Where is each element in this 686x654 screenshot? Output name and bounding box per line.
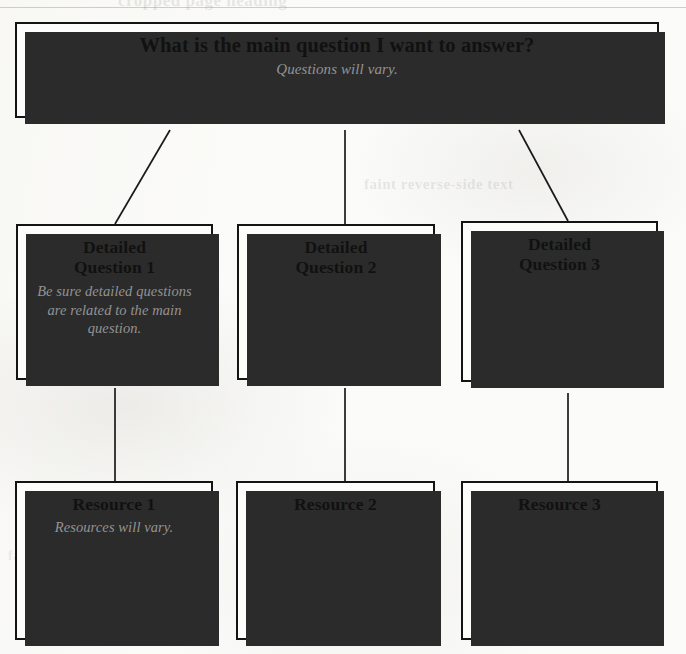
- graphic-organizer-page: cropped page heading faint reverse-side …: [0, 0, 686, 654]
- detailed-question-3-box[interactable]: DetailedQuestion 3: [461, 221, 658, 382]
- resource-1-note: Resources will vary.: [17, 518, 211, 537]
- resource-1-box[interactable]: Resource 1 Resources will vary.: [15, 481, 213, 640]
- resource-3-box[interactable]: Resource 3: [461, 481, 658, 640]
- main-question-note: Questions will vary.: [17, 60, 657, 79]
- connector-group-resources: [115, 388, 568, 481]
- resource-3-label: Resource 3: [463, 495, 656, 515]
- detailed-question-2-box[interactable]: DetailedQuestion 2: [237, 224, 435, 380]
- connector-root-to-q3: [519, 130, 568, 221]
- detailed-question-1-label: DetailedQuestion 1: [18, 238, 211, 277]
- detailed-question-1-box[interactable]: DetailedQuestion 1 Be sure detailed ques…: [16, 224, 213, 380]
- detailed-question-1-note: Be sure detailed questions are related t…: [18, 282, 211, 338]
- main-question-label: What is the main question I want to answ…: [17, 34, 657, 57]
- detailed-question-3-label: DetailedQuestion 3: [463, 235, 656, 274]
- detailed-question-2-label: DetailedQuestion 2: [239, 238, 433, 277]
- resource-2-label: Resource 2: [238, 495, 433, 515]
- connector-root-to-q1: [115, 130, 170, 224]
- main-question-box[interactable]: What is the main question I want to answ…: [15, 22, 659, 118]
- resource-2-box[interactable]: Resource 2: [236, 481, 435, 640]
- resource-1-label: Resource 1: [17, 495, 211, 515]
- connector-group-root: [115, 130, 568, 224]
